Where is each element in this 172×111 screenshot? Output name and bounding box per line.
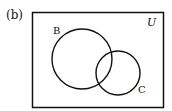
- panel-label: (b): [6, 8, 23, 22]
- set-b-circle: [52, 29, 112, 89]
- universe-label: U: [147, 16, 156, 29]
- set-c-label: C: [138, 84, 146, 95]
- set-b-label: B: [53, 25, 60, 36]
- set-c-circle: [96, 51, 140, 95]
